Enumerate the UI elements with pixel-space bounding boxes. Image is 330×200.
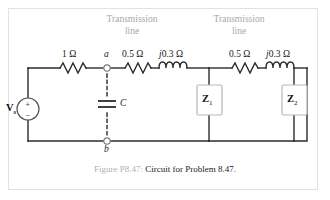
node-b-label: b <box>104 145 109 155</box>
voltage-source-label: Vs <box>6 103 16 116</box>
resistor-tline2-0p5ohm <box>232 63 258 73</box>
source-plus-sign: + <box>26 101 30 109</box>
source-minus-sign: − <box>26 112 30 120</box>
node-a-label: a <box>104 50 109 60</box>
transmission-line-2-title-line1: Transmission <box>205 14 273 26</box>
impedance-z2-symbol: Z <box>287 93 294 104</box>
impedance-z1-subscript: 1 <box>209 99 213 107</box>
impedance-z1-label: Z1 <box>202 94 213 107</box>
inductor-tline2-value: 0.3 Ω <box>269 49 290 59</box>
impedance-z1-symbol: Z <box>202 93 209 104</box>
transmission-line-1-title-line1: Transmission <box>98 14 166 26</box>
transmission-line-2-title-line2: line <box>205 26 273 38</box>
inductor-tline2-j0p3ohm-label: j0.3 Ω <box>266 50 290 60</box>
transmission-line-2-title: Transmission line <box>205 14 273 38</box>
inductor-tline1-j0p3ohm-label: j0.3 Ω <box>159 50 183 60</box>
transmission-line-1-title-line2: line <box>98 26 166 38</box>
resistor-tline1-0p5ohm <box>125 63 151 73</box>
resistor-tline2-0p5ohm-label: 0.5 Ω <box>229 50 250 60</box>
figure-caption-text: Circuit for Problem 8.47. <box>145 164 236 174</box>
voltage-source-symbol: V <box>6 102 14 113</box>
figure-caption-number: Figure P8.47: <box>94 164 143 174</box>
impedance-z2-subscript: 2 <box>294 99 298 107</box>
resistor-1ohm-label: 1 Ω <box>62 50 76 60</box>
transmission-line-1-title: Transmission line <box>98 14 166 38</box>
capacitor-label: C <box>120 99 126 109</box>
impedance-z2-label: Z2 <box>287 94 298 107</box>
inductor-tline1-j0p3ohm <box>159 62 187 68</box>
inductor-tline2-j0p3ohm <box>266 62 294 68</box>
resistor-tline1-0p5ohm-label: 0.5 Ω <box>122 50 143 60</box>
resistor-1ohm <box>60 63 86 73</box>
node-a-marker <box>104 65 110 71</box>
inductor-tline1-value: 0.3 Ω <box>162 49 183 59</box>
voltage-source-subscript: s <box>14 108 17 116</box>
figure-caption: Figure P8.47: Circuit for Problem 8.47. <box>0 164 330 174</box>
